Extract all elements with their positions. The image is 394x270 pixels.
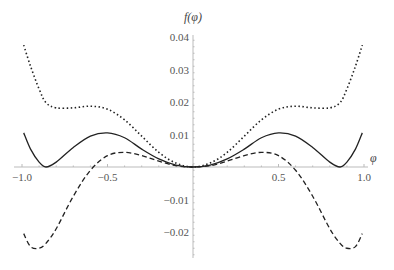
y-tick-label: −0.01	[164, 194, 189, 206]
y-tick-label: 0.01	[170, 129, 189, 141]
y-tick-label: 0.04	[170, 31, 190, 43]
y-tick-label: −0.02	[164, 226, 189, 238]
y-tick-label: 0.03	[170, 64, 190, 76]
x-tick-label: 1.0	[357, 171, 371, 183]
y-axis-label: f(φ)	[184, 10, 202, 24]
x-tick-label: −0.5	[98, 171, 118, 183]
y-tick-label: 0.02	[170, 96, 189, 108]
x-tick-label: −1.0	[12, 171, 32, 183]
potential-plot: −1.0−0.50.51.00.040.030.020.01−0.01−0.02…	[0, 0, 394, 270]
x-tick-label: 0.5	[272, 171, 286, 183]
x-axis-label: φ	[370, 151, 377, 165]
axes: −1.0−0.50.51.00.040.030.020.01−0.01−0.02	[12, 31, 371, 258]
